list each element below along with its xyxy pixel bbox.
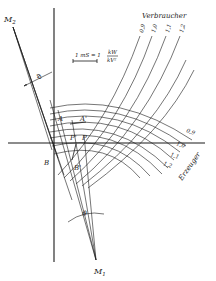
point-a-label: A	[57, 115, 63, 123]
generator-curve-label-2: 1,1	[170, 151, 180, 160]
scale-numerator: kW	[108, 49, 118, 55]
point-p-label: P	[81, 134, 87, 142]
consumer-curve-label-1: 1,0	[150, 23, 158, 33]
generator-curve-label-0: 0,9	[186, 127, 197, 136]
consumer-curve-label-3: 1,2	[178, 23, 186, 33]
point-p-prime-label: P'	[69, 134, 77, 142]
power-circle-diagram: M2 M1 ϑ ϑ A A' P' P B B' Verbraucher 0,9…	[0, 0, 216, 281]
consumer-label: Verbraucher	[142, 12, 187, 20]
vector-p-b	[72, 144, 76, 160]
angle-label-bottom: ϑ	[82, 210, 87, 218]
consumer-curve-label-0: 0,9	[138, 23, 146, 33]
center-m2-label: M2	[3, 15, 16, 25]
generator-curve-label-1: 1,0	[176, 140, 187, 149]
generator-curve-label-3: 1,2	[163, 160, 174, 169]
point-b-prime-label: B'	[73, 164, 81, 172]
center-m1-label: M1	[93, 267, 106, 277]
consumer-curve-label-2: 1,1	[164, 23, 172, 33]
generator-label: Erzeuger	[177, 150, 203, 183]
m2-rays	[13, 27, 72, 200]
point-a-prime-label: A'	[79, 115, 87, 123]
scale-denominator: kV²	[107, 57, 117, 63]
point-b-label: B	[43, 159, 49, 167]
scale-text: 1 mS = 1	[75, 52, 101, 58]
